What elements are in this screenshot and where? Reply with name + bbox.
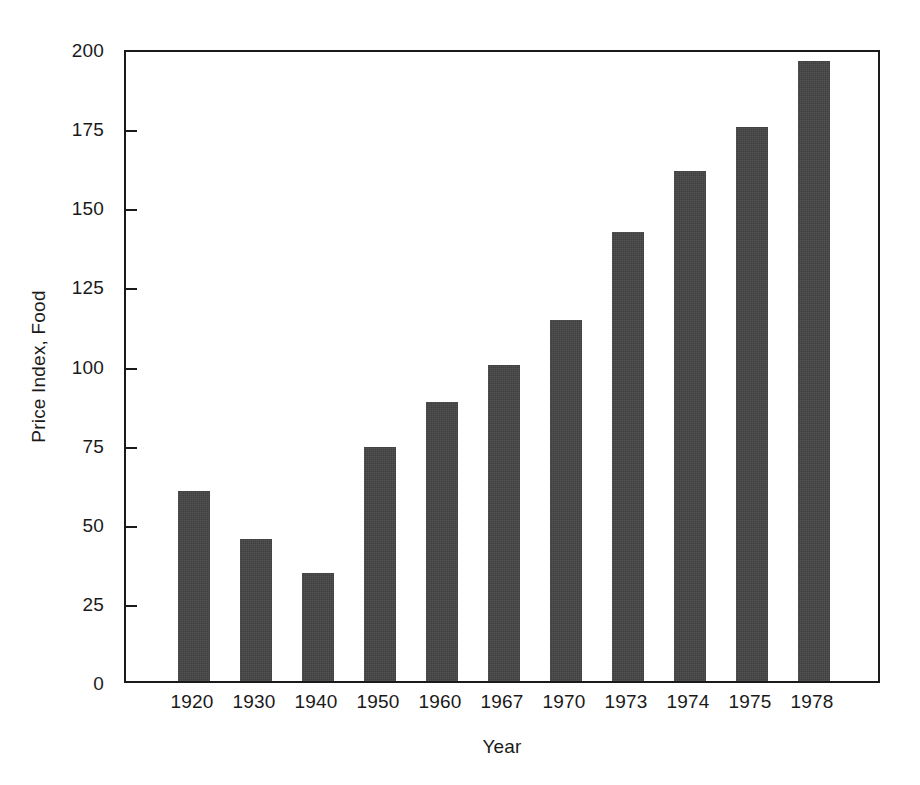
- bar-1940: [302, 573, 334, 681]
- x-axis-tick-labels: 1920193019401950196019671970197319741975…: [124, 692, 880, 720]
- y-axis-tick-75: [125, 447, 137, 449]
- y-axis-tick-label: 200: [34, 41, 104, 60]
- y-axis-tick-175: [125, 130, 137, 132]
- y-axis-tick-100: [125, 368, 137, 370]
- plot-area: [124, 50, 880, 683]
- bar-chart-figure: Price Index, Food 0255075100125150175200…: [0, 0, 920, 785]
- y-axis-tick-label: 100: [34, 358, 104, 377]
- y-axis-tick-label: 25: [34, 595, 104, 614]
- y-axis-tick-label: 175: [34, 120, 104, 139]
- bar-1970: [550, 320, 582, 681]
- y-axis-tick-50: [125, 526, 137, 528]
- x-axis-tick-label: 1978: [776, 692, 848, 711]
- y-axis-tick-label: 75: [34, 437, 104, 456]
- bar-1950: [364, 447, 396, 681]
- y-axis-tick-label: 50: [34, 516, 104, 535]
- y-axis-tick-label: 125: [34, 278, 104, 297]
- y-axis-tick-labels: 0255075100125150175200: [34, 50, 104, 683]
- bar-1973: [612, 232, 644, 681]
- bar-1978: [798, 61, 830, 681]
- bar-1974: [674, 171, 706, 681]
- y-axis-tick-label: 0: [34, 674, 104, 693]
- y-axis-tick-25: [125, 605, 137, 607]
- bar-1975: [736, 127, 768, 681]
- bar-1930: [240, 539, 272, 681]
- y-axis-tick-125: [125, 288, 137, 290]
- x-axis-label: Year: [124, 736, 880, 758]
- bar-1967: [488, 365, 520, 682]
- bar-1920: [178, 491, 210, 681]
- y-axis-tick-label: 150: [34, 199, 104, 218]
- bar-1960: [426, 402, 458, 681]
- y-axis-tick-150: [125, 209, 137, 211]
